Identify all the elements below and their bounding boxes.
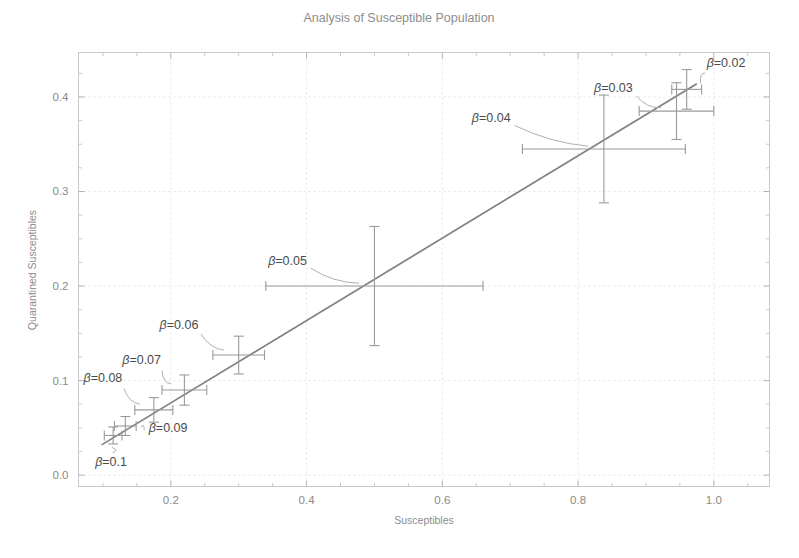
x-axis-title: Susceptibles	[394, 514, 454, 526]
annotation-label: β=0.05	[267, 254, 307, 268]
annotation-label: β=0.02	[706, 56, 746, 70]
annotation-leader-line	[162, 370, 171, 383]
error-bar-marker	[639, 83, 714, 140]
annotation-label: β=0.06	[159, 318, 199, 332]
x-tick-label: 0.2	[163, 494, 179, 506]
annotation-label: β=0.07	[121, 353, 161, 367]
y-tick-label: 0.1	[53, 375, 69, 387]
annotation-leader-line	[515, 125, 589, 146]
y-tick-label: 0.2	[53, 280, 69, 292]
annotation-leader-line	[124, 389, 140, 405]
x-tick-label: 1.0	[706, 494, 722, 506]
x-tick-label: 0.8	[570, 494, 586, 506]
fit-line	[102, 84, 697, 445]
annotation-leader-line	[112, 447, 116, 452]
axis-tick-labels: 0.20.40.60.81.00.00.10.20.30.4	[53, 91, 722, 506]
data-annotations: β=0.02β=0.03β=0.04β=0.05β=0.06β=0.07β=0.…	[83, 56, 746, 469]
x-tick-label: 0.6	[434, 494, 450, 506]
y-tick-label: 0.3	[53, 185, 69, 197]
annotation-leader-line	[636, 96, 661, 108]
annotation-leader-line	[141, 425, 144, 430]
y-tick-label: 0.4	[53, 91, 70, 103]
error-bar-marker	[114, 417, 136, 436]
y-axis-title: Quarantined Susceptibles	[26, 210, 38, 330]
chart-title: Analysis of Susceptible Population	[303, 11, 494, 25]
annotation-label: β=0.1	[94, 455, 127, 469]
annotation-leader-line	[201, 334, 224, 350]
error-bar-marker	[162, 375, 207, 405]
error-bar-marker	[213, 336, 265, 374]
chart-figure: Analysis of Susceptible Population Susce…	[0, 0, 799, 558]
x-tick-label: 0.4	[299, 494, 316, 506]
annotation-leader-line	[700, 73, 705, 83]
error-bar-marker	[135, 398, 173, 423]
regression-line	[102, 84, 697, 445]
error-bar-marker	[266, 226, 483, 345]
annotation-label: β=0.09	[148, 421, 188, 435]
annotation-label: β=0.08	[83, 371, 123, 385]
annotation-label: β=0.04	[471, 111, 511, 125]
y-tick-label: 0.0	[53, 469, 69, 481]
scatter-plot-svg: Analysis of Susceptible Population Susce…	[0, 0, 799, 558]
annotation-leader-line	[311, 268, 359, 283]
annotation-label: β=0.03	[593, 81, 633, 95]
